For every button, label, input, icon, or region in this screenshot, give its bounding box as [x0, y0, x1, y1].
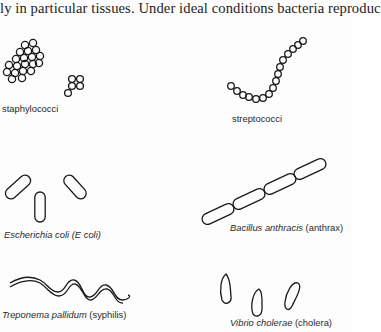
- escherichia-coli-rods-icon: [3, 173, 88, 222]
- bacillus-anthracis-chain-icon: [200, 157, 327, 226]
- staphylococci-cluster-icon: [3, 39, 43, 82]
- label-escherichia-coli: Escherichia coli (E coli): [4, 229, 101, 240]
- label-treponema-pallidum: Treponema pallidum (syphilis): [2, 309, 126, 320]
- label-bacillus-anthracis: Bacillus anthracis (anthrax): [230, 222, 343, 233]
- label-streptococci: streptococci: [232, 113, 282, 124]
- label-vibrio-cholerae: Vibrio cholerae (cholera): [230, 317, 332, 328]
- vibrio-cholerae-cells-icon: [221, 274, 300, 316]
- label-staphylococci: staphylococci: [2, 103, 58, 114]
- streptococci-chain-icon: [228, 38, 307, 103]
- staphylococci-small-cluster-icon: [65, 76, 84, 97]
- treponema-pallidum-spiral-icon: [10, 277, 130, 303]
